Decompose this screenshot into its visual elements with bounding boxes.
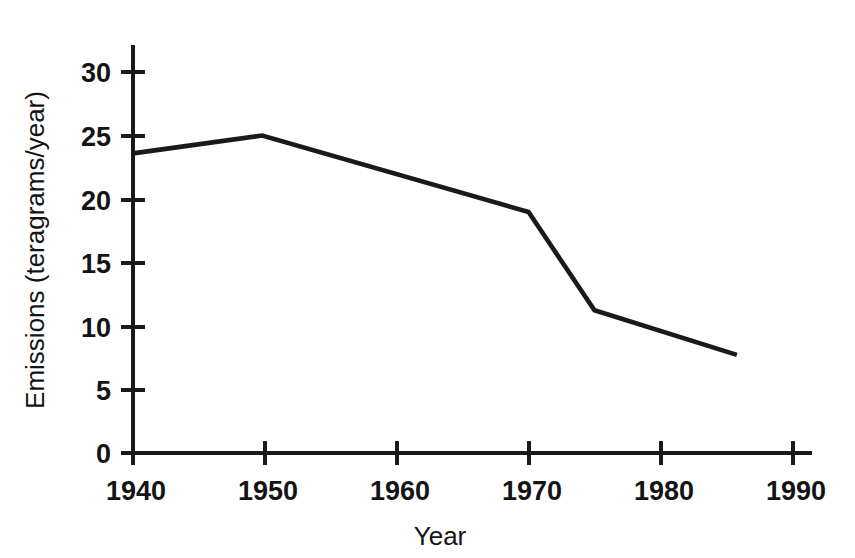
y-tick-label-15: 15 [81,249,111,279]
y-tick-label-5: 5 [96,376,111,406]
x-tick-label-1980: 1980 [634,476,694,506]
y-axis-title: Emissions (teragrams/year) [20,91,50,409]
x-tick-label-1970: 1970 [502,476,562,506]
x-tick-label-1940: 1940 [106,476,166,506]
y-tick-label-20: 20 [81,186,111,216]
x-tick-label-1960: 1960 [370,476,430,506]
x-tick-labels: 1940 1950 1960 1970 1980 1990 [106,476,826,506]
y-tick-label-25: 25 [81,122,111,152]
y-tick-labels: 30 25 20 15 10 5 0 [81,58,111,469]
y-tick-label-30: 30 [81,58,111,88]
x-axis-title: Year [414,521,467,551]
x-tick-label-1990: 1990 [766,476,826,506]
x-tick-label-1950: 1950 [238,476,298,506]
data-series-emissions [133,136,737,355]
chart-container: 30 25 20 15 10 5 0 1940 1950 1960 1970 1… [0,0,855,558]
line-chart-plot: 30 25 20 15 10 5 0 1940 1950 1960 1970 1… [0,0,855,558]
y-tick-label-0: 0 [96,439,111,469]
y-tick-label-10: 10 [81,313,111,343]
